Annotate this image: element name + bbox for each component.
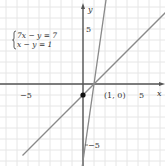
y-tick-neg5: −5 [88,141,100,150]
y-tick-pos5: 5 [86,25,91,34]
x-tick-pos5: 5 [139,91,144,100]
x-axis-arrow-icon [159,82,165,86]
point-0-neg1-dot [80,92,85,97]
equation-2: x − y = 1 [17,40,52,49]
y-axis-arrow-icon [81,3,85,9]
intersection-label: (1, 0) [104,91,126,100]
x-tick-neg5: −5 [20,91,32,100]
x-axis-label: x [157,89,162,98]
y-axis-label: y [87,5,93,14]
coordinate-plane: y x −5 5 5 −5 (1, 0) 7x − y = 7 x − y = … [0,0,165,166]
equation-1: 7x − y = 7 [17,31,57,40]
